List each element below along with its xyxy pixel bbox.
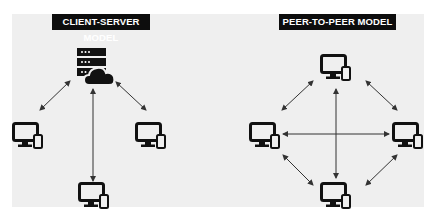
peer-top-icon [322, 56, 351, 81]
server-cloud-icon [77, 48, 114, 85]
peer-bottom-icon [322, 184, 351, 209]
network-diagram [0, 0, 434, 222]
client-right-icon [137, 124, 166, 149]
client-server-connections [40, 81, 146, 181]
client-bottom-icon [80, 184, 109, 209]
peer-left-icon [251, 124, 280, 149]
peer-right-icon [394, 124, 423, 149]
peer-connections [282, 81, 397, 185]
client-left-icon [14, 124, 43, 149]
